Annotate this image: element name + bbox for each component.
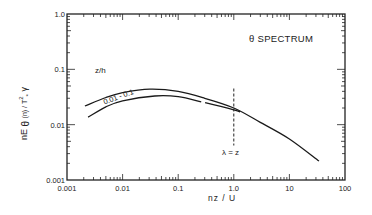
y-tick-label: 0.1 <box>55 65 65 74</box>
y-axis-label: nE θ (n) / T2* γ <box>18 87 31 140</box>
zh-label: z/h <box>95 66 106 75</box>
x-tick-label: 100 <box>339 184 352 193</box>
y-label-sup: 2 <box>18 96 24 99</box>
y-tick-label: 0.01 <box>50 120 65 129</box>
x-tick-label: 0.1 <box>173 184 183 193</box>
y-label-rest: (n) / T <box>21 100 28 119</box>
x-axis-label: nz / U <box>208 193 236 203</box>
lambda-label: λ = z <box>222 148 239 157</box>
y-label-sub: * <box>25 94 31 96</box>
x-tick-label: 0.01 <box>115 184 130 193</box>
y-label-theta: θ <box>20 121 31 127</box>
y-label-ne: nE <box>19 129 29 140</box>
chart-title: θ SPECTRUM <box>249 33 313 44</box>
x-tick-label: 10 <box>285 184 293 193</box>
y-tick-label: 1.0 <box>55 10 65 19</box>
x-tick-label: 0.001 <box>58 184 77 193</box>
y-label-gamma: γ <box>19 87 29 92</box>
y-tick-label: 0.001 <box>46 176 65 185</box>
x-tick-label: 1.0 <box>229 184 239 193</box>
